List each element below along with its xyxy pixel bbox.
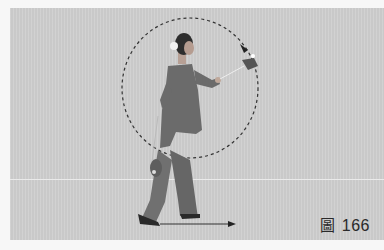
direction-arrow-icon: [160, 221, 236, 227]
figure-caption: 圖166: [320, 214, 370, 235]
caption-figure-glyph: 圖: [320, 217, 336, 235]
figure-illustration: [0, 0, 384, 250]
person-figure: [138, 33, 258, 226]
caption-figure-number: 166: [342, 217, 370, 234]
